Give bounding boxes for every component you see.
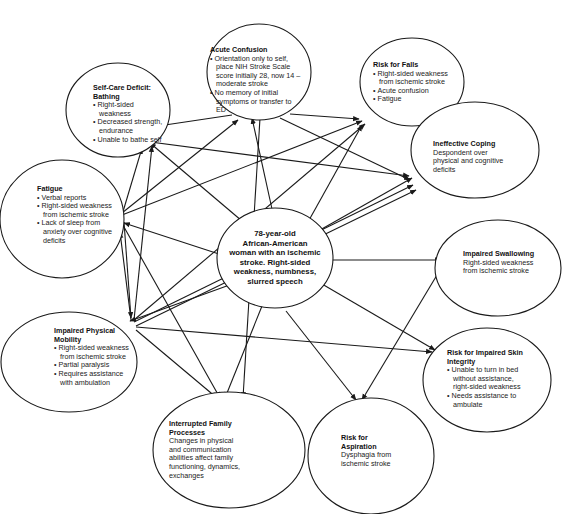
node-title: Self-Care Deficit: Bathing <box>93 84 163 101</box>
node-body: Dysphagia from ischemic stroke <box>341 451 405 468</box>
node-bullet: Right-sided weakness from ischemic strok… <box>54 344 130 361</box>
node-title: Risk for Aspiration <box>341 434 405 451</box>
center-line-5: weakness, numbness, <box>220 267 330 277</box>
node-title: Interrupted Family Processes <box>169 420 245 437</box>
arrow-fatigue-to-family <box>124 227 220 398</box>
node-body: Changes in physical and communication ab… <box>169 437 245 480</box>
node-risk-impaired-skin-integrity: Risk for Impaired Skin Integrity Unable … <box>447 349 529 409</box>
arrow-center-to-coping <box>320 178 412 230</box>
node-title: Impaired Physical Mobility <box>54 327 130 344</box>
node-bullet: Unable to turn in bed without assistance… <box>447 366 529 392</box>
node-fatigue: Fatigue Verbal reports Right-sided weakn… <box>37 185 119 245</box>
arrow-mobility-to-family <box>136 330 217 398</box>
node-bullet: Needs assistance to ambulate <box>447 392 529 409</box>
node-bullet: Unable to bathe self <box>93 136 163 145</box>
node-bullet: Orientation only to self, place NIH Stro… <box>210 55 302 89</box>
center-line-1: 78-year-old <box>220 229 330 239</box>
center-line-3: woman with an ischemic <box>220 248 330 258</box>
node-bullet: Requires assistance with ambulation <box>54 370 130 387</box>
node-interrupted-family-processes: Interrupted Family Processes Changes in … <box>169 420 245 480</box>
node-acute-confusion: Acute Confusion Orientation only to self… <box>210 46 302 115</box>
node-bullet: Decreased strength, endurance <box>93 118 163 135</box>
center-line-6: slurred speech <box>220 277 330 287</box>
center-node-text: 78-year-old African-American woman with … <box>220 229 330 287</box>
node-title: Risk for Impaired Skin Integrity <box>447 349 529 366</box>
node-self-care-deficit: Self-Care Deficit: Bathing Right-sided w… <box>93 84 163 144</box>
node-impaired-physical-mobility: Impaired Physical Mobility Right-sided w… <box>54 327 130 387</box>
arrow-center-to-skin <box>322 284 435 350</box>
arrow-center-to-mobility <box>130 283 235 321</box>
node-impaired-swallowing: Impaired Swallowing Right-sided weakness… <box>463 250 535 276</box>
arrow-center-to-aspiration <box>286 311 356 400</box>
node-bullet: Right-sided weakness <box>93 101 163 118</box>
arrow-mobility-to-selfcare <box>134 146 152 320</box>
node-body: Right-sided weakness from ischemic strok… <box>463 259 535 276</box>
node-risk-for-falls: Risk for Falls Right-sided weakness from… <box>373 61 453 104</box>
node-bullet: Right-sided weakness from ischemic strok… <box>37 202 119 219</box>
node-bullet: Right-sided weakness from ischemic strok… <box>373 70 453 87</box>
arrow-center-to-fatigue <box>124 223 222 255</box>
node-body: Despondent over physical and cognitive d… <box>433 149 515 175</box>
node-ineffective-coping: Ineffective Coping Despondent over physi… <box>433 140 515 174</box>
arrow-confusion-to-falls <box>290 114 359 119</box>
node-bullet: Fatigue <box>373 95 453 104</box>
arrow-selfcare-to-coping <box>120 138 409 176</box>
node-risk-for-aspiration: Risk for Aspiration Dysphagia from ische… <box>341 434 405 468</box>
arrow-mobility-to-skin <box>136 327 432 352</box>
center-line-2: African-American <box>220 239 330 249</box>
center-line-4: stroke. Right-sided <box>220 258 330 268</box>
node-bullet: Lack of sleep from anxiety over cognitiv… <box>37 219 119 245</box>
node-bullet: No memory of initial symptoms or transfe… <box>210 89 302 115</box>
